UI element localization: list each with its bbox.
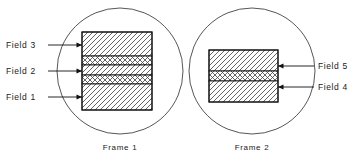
frame-caption-frame-1: Frame 1 <box>103 143 138 152</box>
arrow-head-frame-1-2 <box>77 94 83 99</box>
frame-group-frame-2: Field 5Field 4Frame 2 <box>189 8 348 152</box>
diagram-canvas: Field 3Field 2Field 1Frame 1Field 5Field… <box>0 0 359 162</box>
band-f1-band-2 <box>82 56 152 65</box>
band-f2-band-3 <box>209 81 278 102</box>
band-f1-band-5 <box>82 84 152 110</box>
arrow-head-frame-1-1 <box>77 68 83 73</box>
arrow-head-frame-2-0 <box>278 63 284 68</box>
field-label-field-1: Field 1 <box>6 92 36 102</box>
frame-field-diagram: Field 3Field 2Field 1Frame 1Field 5Field… <box>0 0 359 162</box>
band-f1-band-3 <box>82 65 152 75</box>
band-f2-band-1 <box>209 50 278 71</box>
field-label-field-5: Field 5 <box>318 61 348 71</box>
band-f2-band-2 <box>209 71 278 81</box>
frame-group-frame-1: Field 3Field 2Field 1Frame 1 <box>6 8 183 152</box>
field-label-field-3: Field 3 <box>6 40 36 50</box>
arrow-head-frame-2-1 <box>278 84 284 89</box>
band-f1-band-4 <box>82 75 152 84</box>
field-label-field-2: Field 2 <box>6 66 36 76</box>
field-label-field-4: Field 4 <box>318 82 348 92</box>
band-f1-band-1 <box>82 32 152 56</box>
arrow-head-frame-1-0 <box>77 42 83 47</box>
frame-caption-frame-2: Frame 2 <box>235 143 270 152</box>
